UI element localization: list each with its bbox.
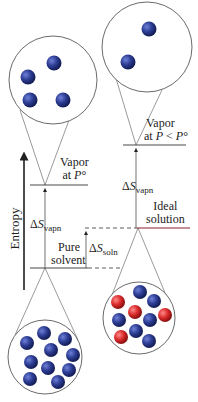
entropy-axis-label: Entropy <box>8 208 21 250</box>
delta-s-vapn-right-label: ΔSvapn <box>122 180 153 197</box>
vapor-low-particles <box>102 2 192 92</box>
vapor-low-label: Vapor at P < P° <box>146 117 188 143</box>
vapor-p0-label: Vapor at P° <box>60 156 89 182</box>
ideal-solution-particles <box>103 282 175 354</box>
pure-solvent-particles <box>8 320 82 394</box>
delta-s-soln-label: ΔSsoln <box>89 242 118 259</box>
delta-s-vapn-left-label: ΔSvapn <box>30 218 61 235</box>
pure-solvent-label: Pure solvent <box>53 241 85 267</box>
vapor-p0-particles <box>9 36 97 124</box>
ideal-solution-label: Ideal solution <box>146 200 185 226</box>
